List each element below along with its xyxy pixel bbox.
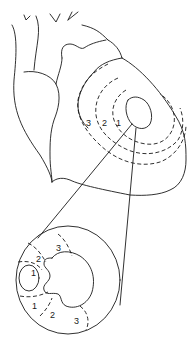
- heart-outline: [12, 12, 186, 195]
- section-label-lower-2: 2: [50, 310, 55, 320]
- cross-section: [16, 226, 120, 334]
- heart-zone-label-3: 3: [86, 118, 91, 128]
- section-label-upper-2: 2: [36, 254, 41, 264]
- heart-infarct-zones: [78, 64, 186, 164]
- section-label-upper-3: 3: [56, 243, 61, 253]
- section-label-lower-1: 1: [32, 301, 37, 311]
- heart-zone-label-1: 1: [116, 118, 121, 128]
- heart-diagram: 3 2 1 3 2 1 1 2 3: [0, 0, 195, 338]
- projection-lines: [38, 124, 136, 305]
- heart-zone-label-2: 2: [102, 118, 107, 128]
- section-label-upper-1: 1: [31, 268, 36, 278]
- section-label-lower-3: 3: [74, 316, 79, 326]
